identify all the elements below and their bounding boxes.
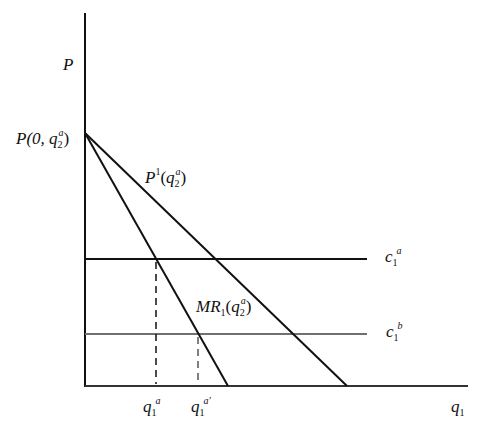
x-axis-base: q: [451, 397, 460, 416]
q1a-prime-sup: a': [204, 395, 211, 406]
intercept-sup: a: [59, 127, 64, 138]
cost-a-base: c: [385, 247, 393, 266]
mr-close: ): [246, 297, 252, 316]
intercept-sub: 2: [58, 139, 63, 150]
q1a-sub: 1: [152, 407, 157, 418]
cost-b-base: c: [386, 322, 394, 341]
cost-a-label: c1a: [385, 248, 402, 265]
cost-b-sub: 1: [394, 332, 399, 343]
mr-q: q: [231, 297, 240, 316]
x-axis-sub: 1: [460, 407, 465, 418]
q1a-base: q: [143, 397, 152, 416]
mr-label: MR1(q2a): [196, 298, 251, 315]
intercept-label: P(0, q2a): [16, 130, 69, 147]
demand-sup2: a: [176, 166, 181, 177]
q1a-marker-label: q1a: [143, 398, 161, 415]
demand-sup: 1: [155, 166, 160, 177]
intercept-suffix: ): [64, 129, 70, 148]
mr-sub2: 2: [240, 307, 245, 318]
demand-close: ): [181, 168, 187, 187]
demand-sub: 2: [175, 178, 180, 189]
mr-base: MR: [196, 297, 221, 316]
cost-a-sub: 1: [393, 257, 398, 268]
q1a-prime-sub: 1: [200, 407, 205, 418]
q1a-prime-marker-label: q1a': [191, 398, 211, 415]
intercept-q: q: [49, 129, 58, 148]
demand-label: P1(q2a): [145, 169, 186, 186]
q1a-prime-base: q: [191, 397, 200, 416]
q1a-sup: a: [156, 395, 161, 406]
demand-base: P: [145, 168, 155, 187]
cost-b-label: c1b: [386, 323, 403, 340]
x-axis-label: q1: [451, 398, 465, 415]
y-axis-label-text: P: [63, 55, 73, 74]
mr-sup: a: [241, 295, 246, 306]
intercept-prefix: P(0,: [16, 129, 49, 148]
y-axis-label: P: [63, 56, 73, 73]
demand-q: q: [166, 168, 175, 187]
cost-b-sup: b: [398, 320, 403, 331]
mr-sub: 1: [221, 307, 226, 318]
cost-a-sup: a: [397, 245, 402, 256]
